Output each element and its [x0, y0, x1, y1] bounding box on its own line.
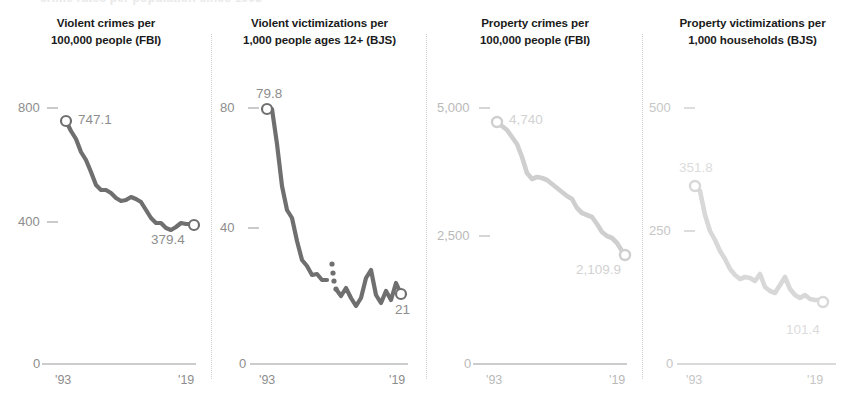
line-chart-svg-3 [643, 0, 862, 409]
line-chart-svg-2 [427, 0, 643, 409]
y-axis-label-40: 40 [220, 220, 234, 235]
start-value-label-2: 4,740 [509, 112, 543, 127]
start-marker-1 [262, 104, 272, 114]
end-value-label-3: 101.4 [786, 322, 820, 337]
y-axis-label-0: 0 [464, 356, 471, 371]
y-axis-label-0: 0 [666, 356, 673, 371]
data-line-2 [497, 122, 625, 255]
start-value-label-0: 747.1 [78, 112, 112, 127]
y-axis-label-0: 0 [33, 356, 40, 371]
x-axis-label-end-1: '19 [389, 373, 405, 387]
end-marker-1 [396, 289, 406, 299]
y-axis-label-250: 250 [649, 223, 671, 238]
chart-plot-area-3 [643, 0, 862, 409]
end-value-label-1: 21 [395, 302, 410, 317]
data-line-1a [267, 109, 327, 280]
y-axis-label-5000: 5,000 [437, 100, 470, 115]
chart-panel-violent-crimes: Violent crimes per 100,000 people (FBI) … [0, 0, 212, 409]
end-value-label-2: 2,109.9 [576, 262, 621, 277]
x-axis-label-start-3: '93 [686, 373, 702, 387]
chart-plot-area-2 [427, 0, 643, 409]
data-line-3 [695, 186, 823, 302]
small-multiples-row: Violent crimes per 100,000 people (FBI) … [0, 0, 862, 409]
start-marker-2 [492, 117, 502, 127]
chart-panel-violent-victimizations: Violent victimizations per 1,000 people … [212, 0, 427, 409]
data-line-break-dots-1 [329, 261, 338, 291]
chart-plot-area-1 [212, 0, 427, 409]
end-marker-2 [620, 250, 630, 260]
data-line-0 [66, 121, 194, 230]
y-axis-label-80: 80 [220, 100, 234, 115]
chart-panel-property-crimes: Property crimes per 100,000 people (FBI)… [427, 0, 643, 409]
crime-trends-figure: crime rates per population since 1993 Vi… [0, 0, 862, 409]
y-axis-label-500: 500 [649, 100, 671, 115]
x-axis-label-start-0: '93 [55, 373, 71, 387]
start-value-label-1: 79.8 [256, 86, 282, 101]
chart-panel-property-victimizations: Property victimizations per 1,000 househ… [643, 0, 862, 409]
x-axis-label-start-1: '93 [259, 373, 275, 387]
x-axis-label-end-2: '19 [609, 373, 625, 387]
x-axis-label-start-2: '93 [486, 373, 502, 387]
start-marker-0 [61, 116, 71, 126]
end-marker-3 [818, 297, 828, 307]
y-axis-label-800: 800 [18, 100, 40, 115]
start-marker-3 [690, 181, 700, 191]
x-axis-label-end-3: '19 [807, 373, 823, 387]
line-chart-svg-0 [0, 0, 212, 409]
line-chart-svg-1 [212, 0, 427, 409]
y-axis-label-400: 400 [18, 214, 40, 229]
end-value-label-0: 379.4 [151, 232, 185, 247]
start-value-label-3: 351.8 [679, 160, 713, 175]
y-axis-label-2500: 2,500 [437, 228, 470, 243]
data-line-1b [336, 270, 401, 306]
y-axis-label-0: 0 [239, 356, 246, 371]
chart-plot-area-0 [0, 0, 212, 409]
end-marker-0 [189, 220, 199, 230]
x-axis-label-end-0: '19 [178, 373, 194, 387]
